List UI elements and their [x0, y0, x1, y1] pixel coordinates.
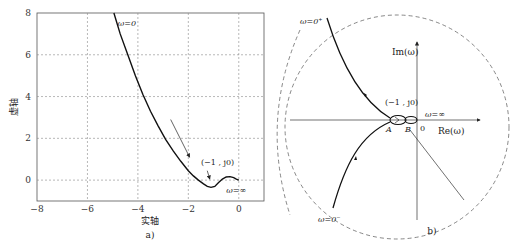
- label-point-a: A: [385, 125, 392, 134]
- arrows: [171, 120, 210, 180]
- direction-arrow-negative: [354, 156, 357, 160]
- x-axis-label: 实轴: [141, 215, 159, 226]
- plot-frame: [37, 13, 264, 201]
- y-tick-label: 2: [25, 133, 31, 143]
- grid: [37, 13, 264, 201]
- x-axis-label: Re(ω): [438, 126, 464, 136]
- diagonal-line: [410, 130, 464, 200]
- y-axis-label: 虚轴: [8, 98, 19, 116]
- x-tick-label: −4: [131, 204, 145, 214]
- closure-arc-inner: [277, 30, 300, 215]
- y-tick-label: 6: [25, 50, 31, 60]
- x-tick-labels: −8−6−4−20: [30, 204, 242, 214]
- label-omega-0-plus: ω=0⁺: [300, 17, 323, 26]
- annotation-omega-zero: ω=0: [118, 19, 136, 28]
- panel-a-label: a): [146, 230, 155, 240]
- nyquist-branch-negative: [333, 122, 390, 208]
- label-origin: 0: [420, 124, 425, 133]
- y-axis-label: Im(ω): [392, 47, 418, 57]
- panel-b-nyquist-sketch: ω=0⁺ ω=0⁻ (−1 , j0) ω=∞ A B 0 Re(ω) Im(ω…: [277, 15, 509, 239]
- y-tick-labels: 02468: [25, 8, 31, 185]
- annotation-arrow: [207, 171, 210, 179]
- y-tick-label: 8: [25, 8, 31, 18]
- x-tick-label: 0: [236, 204, 242, 214]
- label-omega-infinity: ω=∞: [425, 110, 445, 119]
- x-tick-label: −8: [30, 204, 44, 214]
- x-tick-label: −6: [81, 204, 95, 214]
- panel-a-nyquist-plot: −8−6−4−20 02468 实轴 虚轴 a) ω=0 (−1 , j0) ω…: [8, 8, 264, 240]
- y-tick-label: 0: [25, 175, 31, 185]
- annotation-omega-infinity: ω=∞: [226, 186, 246, 195]
- figure: −8−6−4−20 02468 实轴 虚轴 a) ω=0 (−1 , j0) ω…: [0, 0, 512, 251]
- label-point-b: B: [404, 125, 411, 134]
- label-omega-0-minus: ω=0⁻: [318, 215, 341, 224]
- y-tick-label: 4: [25, 92, 31, 102]
- label-critical-point: (−1 , j0): [385, 98, 418, 107]
- x-tick-label: −2: [182, 204, 195, 214]
- annotation-critical-point: (−1 , j0): [201, 158, 234, 167]
- panel-b-label: b): [427, 226, 436, 236]
